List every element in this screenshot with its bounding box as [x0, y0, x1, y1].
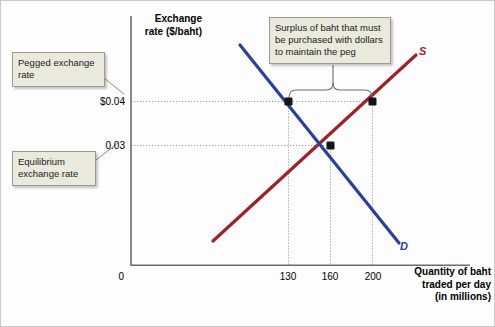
y-axis-title-line-2: rate ($/baht)	[96, 26, 202, 39]
marker-equilibrium	[327, 142, 335, 150]
x-tick-label-200: 200	[356, 271, 390, 282]
x-tick-label-130: 130	[271, 271, 305, 282]
marker-quantity-demanded	[285, 98, 293, 106]
x-axis-title: Quantity of baht traded per day (in mill…	[378, 266, 491, 304]
marker-quantity-supplied	[369, 98, 377, 106]
supply-curve-label: S	[419, 45, 426, 57]
demand-curve-label: D	[400, 240, 408, 252]
callout-pegged-exchange-rate: Pegged exchange rate	[12, 52, 105, 87]
x-axis-title-line-1: Quantity of baht	[378, 266, 491, 279]
x-axis-title-line-3: (in millions)	[378, 291, 491, 304]
y-axis-title: Exchange rate ($/baht)	[96, 13, 202, 38]
callout-surplus: Surplus of baht that must be purchased w…	[269, 17, 391, 64]
y-tick-label-003: 0.03	[58, 140, 125, 151]
origin-label: 0	[110, 271, 124, 282]
x-axis-title-line-2: traded per day	[378, 279, 491, 292]
chart-figure: Exchange rate ($/baht) Quantity of baht …	[0, 0, 495, 327]
callout-equilibrium-exchange-rate: Equilibrium exchange rate	[12, 151, 96, 186]
y-axis-title-line-1: Exchange	[96, 13, 202, 26]
x-tick-label-160: 160	[313, 271, 347, 282]
y-tick-label-004: $0.04	[58, 96, 125, 107]
